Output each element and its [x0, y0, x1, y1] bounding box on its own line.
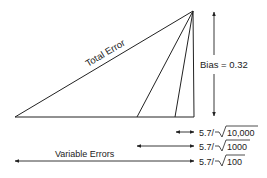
- error-line-1000: [137, 11, 193, 117]
- bias-vertical-side: [193, 11, 194, 117]
- triangle: [15, 11, 194, 117]
- bias-label: Bias = 0.32: [200, 59, 248, 70]
- row-label-1000: 5.7/ 1000: [199, 140, 250, 152]
- svg-text:10,000: 10,000: [227, 128, 255, 138]
- svg-text:5.7/: 5.7/: [199, 128, 215, 138]
- diagram-svg: Total Error Bias = 0.32 Variable Errors …: [0, 0, 267, 178]
- svg-text:5.7/: 5.7/: [199, 142, 215, 152]
- row-label-10000: 5.7/ 10,000: [199, 126, 258, 138]
- variable-errors-label: Variable Errors: [55, 149, 115, 159]
- error-triangle-diagram: Total Error Bias = 0.32 Variable Errors …: [0, 0, 267, 178]
- total-error-hypotenuse: [15, 11, 193, 117]
- svg-text:5.7/: 5.7/: [199, 157, 215, 167]
- row-label-100: 5.7/ 100: [199, 155, 245, 167]
- svg-text:100: 100: [227, 157, 242, 167]
- error-line-10000: [175, 11, 193, 117]
- svg-text:1000: 1000: [227, 142, 247, 152]
